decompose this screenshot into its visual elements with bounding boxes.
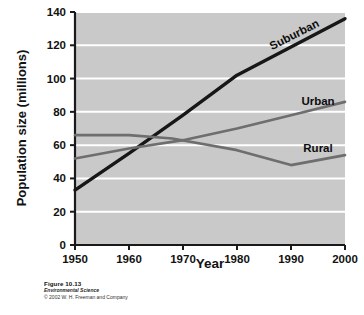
caption-copyright: © 2002 W. H. Freeman and Company [44,294,344,301]
y-axis-tick-label: 40 [53,172,66,184]
figure-caption: Figure 10.13 Environmental Science © 200… [44,280,344,301]
y-axis-tick-label: 0 [60,239,66,251]
y-axis-tick-labels: 020406080100120140 [47,6,66,251]
x-axis-tick-label: 1980 [224,253,250,265]
series-label-rural: Rural [303,142,332,154]
figure-root: 020406080100120140 195019601970198019902… [0,0,364,315]
plot-background [75,12,345,245]
y-axis-tick-label: 80 [53,106,66,118]
line-chart: 020406080100120140 195019601970198019902… [0,0,364,270]
y-axis-title: Population size (millions) [14,50,29,207]
x-axis-tick-label: 1970 [170,253,196,265]
x-axis-tick-label: 1990 [278,253,304,265]
x-axis-tick-label: 1960 [116,253,142,265]
caption-book-title: Environmental Science [44,287,344,294]
y-axis-tick-label: 120 [47,39,66,51]
x-axis-tick-label: 1950 [62,253,88,265]
x-axis-title: Year [196,256,225,270]
y-axis-tick-label: 20 [53,206,66,218]
caption-figure-number: Figure 10.13 [44,280,344,287]
y-axis-tick-label: 100 [47,73,66,85]
y-axis-tick-label: 140 [47,6,66,18]
series-label-urban: Urban [301,95,334,107]
x-axis-tick-label: 2000 [332,253,358,265]
y-axis-tick-label: 60 [53,139,66,151]
chart-area: 020406080100120140 195019601970198019902… [0,0,364,270]
